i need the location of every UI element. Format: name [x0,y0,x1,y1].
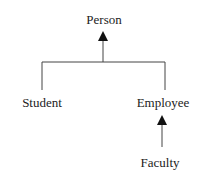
arrowhead-employee [157,115,167,125]
node-student: Student [22,95,62,110]
node-employee: Employee [137,95,190,110]
node-faculty: Faculty [141,155,180,170]
arrowhead-person [98,31,108,41]
inheritance-diagram: Person Student Employee Faculty [0,0,205,177]
node-person: Person [86,12,122,27]
